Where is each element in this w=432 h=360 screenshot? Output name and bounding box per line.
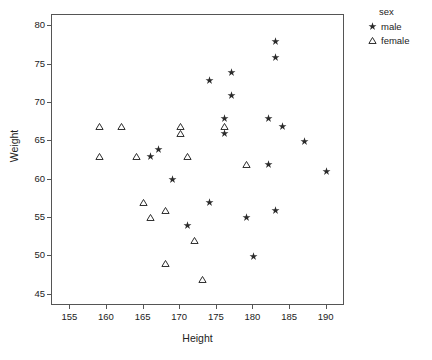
legend-entries: malefemale (366, 20, 432, 47)
data-point-male (227, 91, 236, 100)
x-axis-tick (179, 305, 180, 309)
data-point-female (95, 122, 104, 131)
data-point-male (271, 53, 280, 62)
data-point-female (161, 206, 170, 215)
y-axis-tick-label: 80 (5, 20, 45, 30)
x-axis-tick (252, 305, 253, 309)
x-axis-tick (143, 305, 144, 309)
data-point-male (249, 252, 258, 261)
y-axis-tick (47, 140, 51, 141)
y-axis-title: Weight (8, 106, 20, 186)
y-axis-tick (47, 25, 51, 26)
y-axis-tick (47, 255, 51, 256)
data-point-male (300, 137, 309, 146)
x-axis-tick-label: 160 (86, 311, 126, 322)
data-point-female (117, 122, 126, 131)
y-axis-tick (47, 64, 51, 65)
data-point-female (95, 152, 104, 161)
data-point-female (161, 259, 170, 268)
y-axis-tick-label: 55 (5, 212, 45, 222)
data-point-male (205, 198, 214, 207)
y-axis-tick-label: 75 (5, 59, 45, 69)
data-point-female (220, 122, 229, 131)
x-axis-tick-label: 165 (123, 311, 163, 322)
y-axis-tick (47, 179, 51, 180)
data-point-male (183, 221, 192, 230)
y-axis-tick (47, 217, 51, 218)
data-point-female (183, 152, 192, 161)
legend-item-male[interactable]: male (366, 20, 432, 33)
data-point-male (271, 206, 280, 215)
data-point-female (190, 236, 199, 245)
y-axis-tick (47, 294, 51, 295)
data-point-male (264, 160, 273, 169)
plot-area (51, 14, 344, 305)
data-point-male (220, 129, 229, 138)
legend-item-female[interactable]: female (366, 34, 432, 47)
y-axis-tick (47, 102, 51, 103)
data-point-male (146, 152, 155, 161)
data-point-female (242, 160, 251, 169)
x-axis-tick-label: 175 (196, 311, 236, 322)
y-axis-tick-label: 45 (5, 289, 45, 299)
triangle-marker-icon (366, 35, 379, 46)
data-point-female (146, 213, 155, 222)
x-axis-tick (216, 305, 217, 309)
data-point-female (198, 275, 207, 284)
data-point-female (176, 129, 185, 138)
data-point-male (322, 167, 331, 176)
legend-item-label: female (381, 35, 410, 46)
data-point-female (132, 152, 141, 161)
scatter-plot: 4550556065707580155160165170175180185190… (0, 0, 432, 360)
y-axis-tick-label: 50 (5, 250, 45, 260)
x-axis-tick (326, 305, 327, 309)
x-axis-tick-label: 185 (269, 311, 309, 322)
data-point-male (242, 213, 251, 222)
x-axis-tick-label: 155 (49, 311, 89, 322)
x-axis-tick-label: 180 (232, 311, 272, 322)
data-point-male (205, 76, 214, 85)
legend-title: sex (379, 6, 432, 17)
data-point-male (264, 114, 273, 123)
data-point-male (271, 37, 280, 46)
data-point-female (139, 198, 148, 207)
x-axis-tick (106, 305, 107, 309)
data-points-layer (52, 15, 343, 304)
data-point-male (168, 175, 177, 184)
star-marker-icon (366, 21, 379, 32)
data-point-male (154, 145, 163, 154)
data-point-male (227, 68, 236, 77)
x-axis-tick (69, 305, 70, 309)
x-axis-tick-label: 190 (306, 311, 346, 322)
legend-item-label: male (381, 21, 402, 32)
x-axis-tick-label: 170 (159, 311, 199, 322)
x-axis-tick (289, 305, 290, 309)
legend: sex malefemale (366, 6, 432, 48)
data-point-male (278, 122, 287, 131)
x-axis-title: Height (51, 332, 344, 344)
